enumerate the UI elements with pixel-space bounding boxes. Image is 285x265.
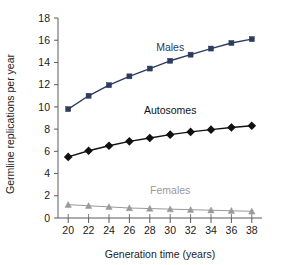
series-label-males: Males [156, 41, 184, 53]
x-axis-tick-label: 26 [124, 224, 136, 236]
data-point-marker [249, 37, 254, 42]
y-axis-tick-label: 10 [38, 101, 50, 113]
y-axis-tick-label: 16 [38, 34, 50, 46]
x-axis-tick-label: 20 [62, 224, 74, 236]
y-axis-tick-label: 4 [44, 167, 50, 179]
x-axis-tick-label: 32 [185, 224, 197, 236]
data-point-marker [86, 93, 91, 98]
y-axis-title: Germline replications per year [4, 53, 16, 194]
y-axis-tick-label: 18 [38, 12, 50, 24]
x-axis-tick-label: 38 [246, 224, 258, 236]
data-point-marker [66, 107, 71, 112]
y-axis-tick-label: 0 [44, 212, 50, 224]
x-axis-title: Generation time (years) [105, 248, 215, 260]
x-axis-tick-label: 28 [144, 224, 156, 236]
data-point-marker [147, 66, 152, 71]
chart-canvas: 024681012141618 20222426283032343638 Mal… [0, 0, 285, 265]
y-axis-tick-label: 12 [38, 78, 50, 90]
x-axis-tick-label: 22 [83, 224, 95, 236]
y-axis-tick-label: 14 [38, 56, 50, 68]
x-axis-tick-label: 34 [205, 224, 217, 236]
y-axis-tick-label: 8 [44, 123, 50, 135]
chart-figure: 024681012141618 20222426283032343638 Mal… [0, 0, 285, 265]
data-point-marker [168, 58, 173, 63]
data-point-marker [229, 41, 234, 46]
series-label-autosomes: Autosomes [144, 104, 197, 116]
y-axis-tick-label: 6 [44, 145, 50, 157]
x-axis-tick-label: 30 [164, 224, 176, 236]
data-point-marker [107, 83, 112, 88]
data-point-marker [209, 46, 214, 51]
data-point-marker [188, 52, 193, 57]
data-point-marker [127, 74, 132, 79]
x-axis-tick-label: 24 [103, 224, 115, 236]
series-label-females: Females [150, 184, 190, 196]
y-axis-tick-label: 2 [44, 189, 50, 201]
x-axis-tick-label: 36 [226, 224, 238, 236]
